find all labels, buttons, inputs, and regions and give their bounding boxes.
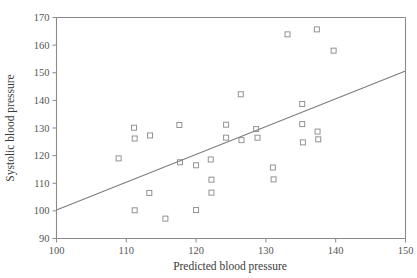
y-tick-label: 100 xyxy=(34,205,50,216)
x-axis-title: Predicted blood pressure xyxy=(173,260,287,273)
data-point-marker xyxy=(224,122,229,127)
x-tick-label: 130 xyxy=(258,245,274,256)
data-points xyxy=(116,27,336,221)
x-tick-label: 120 xyxy=(188,245,204,256)
regression-line xyxy=(57,71,406,210)
y-tick-label: 150 xyxy=(34,67,50,78)
y-tick-label: 160 xyxy=(34,40,50,51)
data-point-marker xyxy=(148,133,153,138)
data-point-marker xyxy=(285,32,290,37)
data-point-marker xyxy=(315,129,320,134)
data-point-marker xyxy=(300,122,305,127)
y-axis-title: Systolic blood pressure xyxy=(4,74,17,181)
data-point-marker xyxy=(239,138,244,143)
data-point-marker xyxy=(300,101,305,106)
x-tick-labels: 100110120130140150 xyxy=(49,245,414,256)
data-point-marker xyxy=(132,136,137,141)
scatter-plot-figure: 100110120130140150 901001101201301401501… xyxy=(0,0,417,278)
trend-line xyxy=(57,71,406,210)
data-point-marker xyxy=(300,140,305,145)
data-point-marker xyxy=(208,157,213,162)
data-point-marker xyxy=(116,156,121,161)
x-tick-label: 140 xyxy=(328,245,344,256)
data-point-marker xyxy=(255,135,260,140)
y-tick-label: 90 xyxy=(39,233,50,244)
data-point-marker xyxy=(314,27,319,32)
tick-marks xyxy=(53,18,406,243)
axes xyxy=(57,18,406,239)
data-point-marker xyxy=(209,177,214,182)
y-tick-label: 110 xyxy=(34,178,49,189)
y-tick-labels: 90100110120130140150160170 xyxy=(34,12,50,244)
y-tick-label: 170 xyxy=(34,12,50,23)
y-tick-label: 120 xyxy=(34,150,50,161)
y-tick-label: 130 xyxy=(34,123,50,134)
data-point-marker xyxy=(224,135,229,140)
x-tick-label: 150 xyxy=(398,245,414,256)
plot-canvas: 100110120130140150 901001101201301401501… xyxy=(0,0,417,278)
data-point-marker xyxy=(132,208,137,213)
data-point-marker xyxy=(163,216,168,221)
y-tick-label: 140 xyxy=(34,95,50,106)
x-tick-label: 100 xyxy=(49,245,65,256)
data-point-marker xyxy=(271,177,276,182)
data-point-marker xyxy=(209,190,214,195)
x-tick-label: 110 xyxy=(119,245,134,256)
data-point-marker xyxy=(147,190,152,195)
data-point-marker xyxy=(194,208,199,213)
data-point-marker xyxy=(331,48,336,53)
data-point-marker xyxy=(131,125,136,130)
data-point-marker xyxy=(270,165,275,170)
data-point-marker xyxy=(238,92,243,97)
data-point-marker xyxy=(177,122,182,127)
data-point-marker xyxy=(194,163,199,168)
data-point-marker xyxy=(316,137,321,142)
